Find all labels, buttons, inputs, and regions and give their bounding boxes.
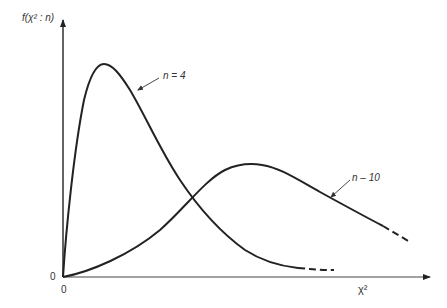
curve-n4-tail (298, 268, 334, 270)
curve-n4 (63, 64, 298, 277)
x-origin-tick: 0 (61, 284, 67, 295)
n4-pointer (138, 78, 159, 90)
x-axis-label: χ² (358, 283, 367, 295)
legend-n4: n = 4 (163, 70, 186, 81)
y-origin-tick: 0 (50, 271, 56, 282)
n10-pointer (331, 180, 350, 197)
curve-n10 (63, 164, 383, 277)
curve-n10-tail (383, 226, 410, 242)
y-axis-label: f(χ² : n) (22, 12, 54, 23)
chart-canvas (0, 0, 447, 308)
legend-n10: n – 10 (352, 172, 380, 183)
